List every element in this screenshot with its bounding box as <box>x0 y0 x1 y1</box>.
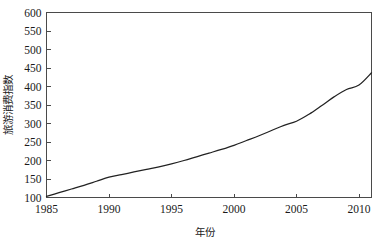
y-axis-tick-labels: 100150200250300350400450500550600 <box>24 7 42 204</box>
y-tick-label: 550 <box>24 25 42 37</box>
x-axis-tick-labels: 198519901995200020052010 <box>35 203 371 215</box>
x-tick-label: 1985 <box>35 203 58 215</box>
data-series-group <box>47 73 372 197</box>
y-tick-label: 150 <box>24 173 42 185</box>
y-tick-label: 500 <box>24 44 42 56</box>
x-tick-label: 2005 <box>285 203 308 215</box>
x-axis-ticks <box>47 194 360 198</box>
chart-container: 100150200250300350400450500550600 198519… <box>0 0 385 246</box>
y-axis-ticks <box>47 13 51 198</box>
y-tick-label: 300 <box>24 118 42 130</box>
series-line <box>47 73 372 197</box>
x-axis-title: 年份 <box>195 226 216 238</box>
y-tick-label: 400 <box>24 81 42 93</box>
x-tick-label: 2000 <box>223 203 246 215</box>
x-tick-label: 1990 <box>98 203 121 215</box>
line-chart: 100150200250300350400450500550600 198519… <box>0 0 385 246</box>
y-tick-label: 250 <box>24 136 42 148</box>
y-tick-label: 450 <box>24 62 42 74</box>
x-tick-label: 2010 <box>348 203 371 215</box>
y-tick-label: 600 <box>24 7 42 19</box>
y-axis-title: 旅游消费指数 <box>2 74 14 135</box>
y-tick-label: 350 <box>24 99 42 111</box>
x-tick-label: 1995 <box>160 203 183 215</box>
y-tick-label: 200 <box>24 155 42 167</box>
